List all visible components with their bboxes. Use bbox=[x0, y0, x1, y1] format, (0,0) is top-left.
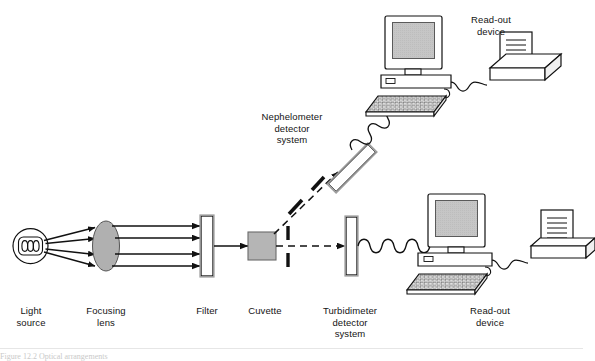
readout-printer-bottom bbox=[531, 210, 595, 258]
readout-computer-bottom bbox=[407, 194, 528, 294]
label-nephelometer-detector-system: Nephelometer detector system bbox=[243, 111, 341, 146]
label-readout-device-top: Read-out device bbox=[455, 14, 527, 37]
readout-printer-top bbox=[490, 32, 561, 80]
label-readout-device-bottom: Read-out device bbox=[454, 305, 526, 328]
light-source-lamp bbox=[13, 229, 48, 264]
label-turbidimeter-detector-system: Turbidimeter detector system bbox=[306, 305, 394, 340]
cuvette-cell bbox=[248, 232, 276, 260]
collimated-rays bbox=[112, 226, 200, 266]
coiled-cable-bottom bbox=[358, 239, 430, 253]
label-filter: Filter bbox=[176, 305, 238, 317]
filter-slab bbox=[200, 215, 214, 277]
figure-caption: Figure 12.2 Optical arrangements bbox=[0, 352, 595, 361]
label-focusing-lens: Focusing lens bbox=[72, 305, 140, 328]
angled-slit-pair bbox=[289, 177, 324, 214]
turbidimeter-detector-slab bbox=[345, 216, 358, 276]
figure-canvas: Light source Focusing lens Filter Cuvett… bbox=[0, 0, 595, 361]
figure-divider-rule bbox=[0, 348, 583, 349]
focusing-lens bbox=[93, 221, 120, 271]
diverging-rays bbox=[44, 228, 95, 267]
scattered-beam bbox=[274, 172, 338, 234]
nephelometer-detector-slab bbox=[327, 143, 377, 193]
label-cuvette: Cuvette bbox=[232, 305, 298, 317]
label-light-source: Light source bbox=[3, 305, 59, 328]
